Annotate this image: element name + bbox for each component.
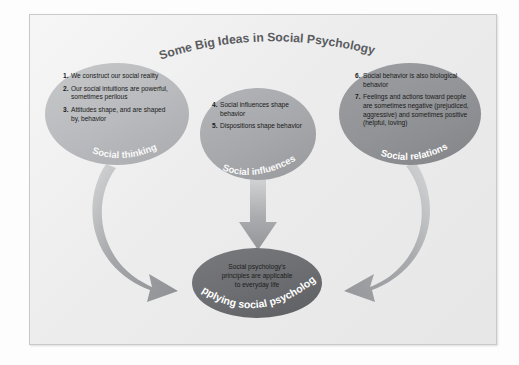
- item-text: Our social intuitions are powerful, some…: [71, 85, 175, 102]
- item-text: Attitudes shape, and are shaped by, beha…: [71, 106, 175, 123]
- item-text: We construct our social reality: [71, 72, 175, 81]
- arrow-right: [344, 163, 430, 302]
- center-line: Social psychology's: [197, 262, 317, 271]
- list-item: 7. Feelings and actions toward people ar…: [355, 93, 469, 127]
- list-item: 2. Our social intuitions are powerful, s…: [63, 85, 175, 102]
- figure-graphics: Some Big Ideas in Social Psychology Soci…: [0, 0, 519, 365]
- list-social-influences: 4. Social influences shape behavior 5. D…: [212, 101, 308, 135]
- list-item: 4. Social influences shape behavior: [212, 101, 308, 118]
- center-line: principles are applicable: [197, 271, 317, 280]
- list-item: 1. We construct our social reality: [63, 72, 175, 81]
- item-number: 1.: [63, 72, 71, 81]
- list-item: 5. Dispositions shape behavior: [212, 122, 308, 131]
- figure-title-path: Some Big Ideas in Social Psychology: [157, 30, 376, 62]
- item-number: 5.: [212, 122, 220, 131]
- item-number: 4.: [212, 101, 220, 118]
- figure-canvas: Some Big Ideas in Social Psychology Soci…: [0, 0, 519, 365]
- item-text: Social influences shape behavior: [220, 101, 308, 118]
- arrow-middle: [239, 178, 277, 250]
- item-number: 7.: [355, 93, 363, 127]
- item-number: 2.: [63, 85, 71, 102]
- list-item: 3. Attitudes shape, and are shaped by, b…: [63, 106, 175, 123]
- center-text: Social psychology's principles are appli…: [197, 262, 317, 289]
- center-line: to everyday life: [197, 280, 317, 289]
- arrow-left: [92, 164, 178, 302]
- list-item: 6. Social behavior is also biological be…: [355, 72, 469, 89]
- figure-title: Some Big Ideas in Social Psychology: [157, 30, 376, 62]
- item-text: Social behavior is also biological behav…: [363, 72, 469, 89]
- list-social-relations: 6. Social behavior is also biological be…: [355, 72, 469, 132]
- item-text: Feelings and actions toward people are s…: [363, 93, 469, 127]
- item-text: Dispositions shape behavior: [220, 122, 308, 131]
- item-number: 3.: [63, 106, 71, 123]
- item-number: 6.: [355, 72, 363, 89]
- list-social-thinking: 1. We construct our social reality 2. Ou…: [63, 72, 175, 128]
